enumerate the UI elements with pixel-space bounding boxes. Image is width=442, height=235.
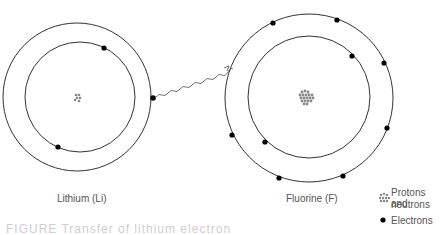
lithium-outer-electron (150, 95, 156, 101)
fluorine-outer-electron (384, 125, 389, 130)
fluorine-outer-electron (381, 60, 386, 65)
figure-caption: FIGURE Transfer of lithium electron (6, 222, 231, 235)
fluorine-outer-electron (334, 17, 339, 22)
lithium-inner-electron (55, 144, 60, 149)
fluorine-outer-electron (276, 175, 281, 180)
fluorine-inner-electron (349, 53, 354, 58)
fluorine-nucleus (299, 90, 315, 106)
lithium-label: Lithium (Li) (57, 193, 106, 204)
fluorine-label: Fluorine (F) (286, 193, 338, 204)
fluorine-atom (225, 14, 393, 182)
lithium-inner-electron (101, 45, 106, 50)
fluorine-inner-electron (262, 139, 267, 144)
lithium-nucleus (74, 94, 82, 103)
electron-transfer-arrow (156, 66, 233, 97)
fluorine-outer-electron (229, 132, 234, 137)
legend-electron-label: Electrons (391, 215, 433, 226)
fluorine-outer-electron (340, 173, 345, 178)
lithium-atom (3, 23, 156, 171)
legend-nucleus-label-line2: neutrons (391, 199, 430, 210)
fluorine-outer-electron (270, 20, 275, 25)
electron-legend-icon (380, 217, 385, 222)
nucleus-legend-icon (379, 193, 390, 202)
